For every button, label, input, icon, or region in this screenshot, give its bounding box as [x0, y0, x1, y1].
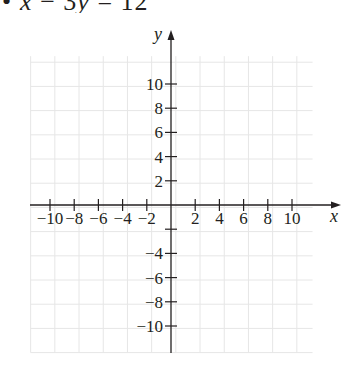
y-tick-label: −6 [145, 269, 163, 288]
y-tick-label: −8 [145, 293, 163, 312]
x-tick-label: 2 [191, 209, 200, 228]
x-tick-label: −8 [65, 209, 83, 228]
y-tick-label: 10 [146, 75, 163, 94]
x-tick-label: 4 [215, 209, 224, 228]
x-tick-label: 6 [239, 209, 248, 228]
y-axis-arrow-icon [168, 30, 175, 40]
x-tick-label: −6 [89, 209, 107, 228]
x-tick-label: −2 [138, 209, 156, 228]
y-tick-label: 4 [155, 148, 164, 167]
coordinate-grid: xy−10−8−6−4−2246810108642−4−6−8−10 [0, 0, 353, 366]
x-axis-label: x [329, 206, 338, 226]
y-tick-label: 6 [155, 123, 164, 142]
x-tick-label: 8 [264, 209, 273, 228]
y-tick-label: −4 [145, 244, 164, 263]
y-axis-label: y [152, 24, 162, 44]
x-tick-label: −4 [114, 209, 133, 228]
y-tick-label: 2 [155, 172, 164, 191]
x-tick-label: 10 [284, 209, 301, 228]
y-tick-label: 8 [155, 99, 164, 118]
y-tick-label: −10 [136, 317, 163, 336]
x-tick-label: −10 [37, 209, 64, 228]
